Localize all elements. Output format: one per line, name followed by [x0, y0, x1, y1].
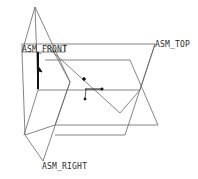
asm-top-label[interactable]: ASM_TOP [155, 40, 190, 49]
asm-right-plane-outline [22, 7, 70, 161]
datum-planes-wireframe [0, 0, 198, 179]
csys-axis-y [85, 89, 86, 99]
csys-point [101, 88, 103, 90]
csys-arrow [38, 66, 42, 72]
asm-top-plane-diag [45, 45, 140, 113]
csys-origin-point [83, 78, 86, 81]
asm-top-plane-lower [45, 60, 158, 125]
asm-right-label[interactable]: ASM_RIGHT [42, 162, 87, 171]
asm-right-plane-inner [24, 7, 38, 135]
model-graphics-viewport[interactable]: ASM_FRONT ASM_TOP ASM_RIGHT [0, 0, 198, 179]
asm-front-label[interactable]: ASM_FRONT [22, 45, 67, 54]
asm-top-plane-outline [55, 44, 155, 135]
